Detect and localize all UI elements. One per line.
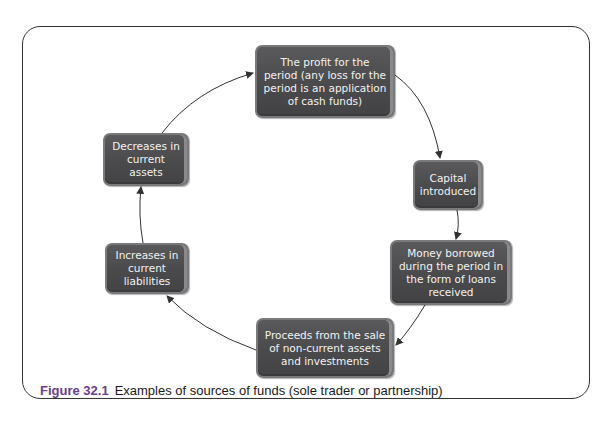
node-capital: Capital introduced: [413, 160, 483, 210]
arrow-borrowed-to-proceeds: [396, 305, 425, 345]
node-liabilities-text: Increases in current liabilities: [113, 249, 181, 288]
node-proceeds: Proceeds from the sale of non-current as…: [256, 318, 394, 378]
node-assets-text: Decreases in current assets: [111, 140, 181, 179]
arrow-assets-to-profit: [162, 73, 253, 133]
node-profit: The profit for the period (any loss for …: [255, 45, 395, 118]
arrow-proceeds-to-liabilities: [167, 296, 256, 350]
node-capital-text: Capital introduced: [420, 172, 476, 198]
node-profit-text: The profit for the period (any loss for …: [263, 56, 387, 108]
arrow-liabilities-to-assets: [140, 187, 143, 243]
arrow-profit-to-capital: [395, 75, 440, 158]
node-borrowed-text: Money borrowed during the period in the …: [398, 247, 504, 299]
arrow-capital-to-borrowed: [456, 210, 458, 239]
node-borrowed: Money borrowed during the period in the …: [390, 240, 512, 305]
figure-caption-text: Examples of sources of funds (sole trade…: [115, 383, 443, 398]
node-liabilities: Increases in current liabilities: [105, 243, 189, 294]
node-proceeds-text: Proceeds from the sale of non-current as…: [264, 329, 386, 368]
figure-caption: Figure 32.1Examples of sources of funds …: [40, 383, 443, 398]
figure-label: Figure 32.1: [40, 383, 109, 398]
node-assets: Decreases in current assets: [103, 133, 189, 186]
